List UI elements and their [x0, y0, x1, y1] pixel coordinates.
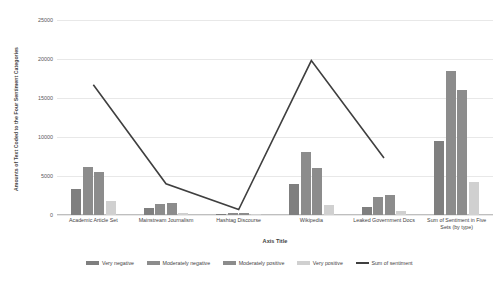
legend-item[interactable]: Moderately positive: [223, 260, 284, 266]
legend-line-swatch-icon: [356, 262, 369, 263]
bar: [178, 213, 188, 215]
bar: [144, 208, 154, 215]
bar-groups: [57, 20, 493, 215]
bar: [324, 205, 334, 215]
bar-group: [57, 20, 130, 215]
bar: [71, 189, 81, 215]
bar: [106, 201, 116, 215]
x-axis-labels: Academic Article SetMainstream Journalis…: [57, 217, 493, 231]
bar: [94, 172, 104, 215]
bar: [216, 214, 226, 215]
legend-label: Very positive: [313, 260, 343, 266]
x-tick-label: Leaked Government Docs: [348, 217, 421, 231]
plot-area: 0500010000150002000025000: [57, 20, 493, 215]
legend-item[interactable]: Very positive: [297, 260, 343, 266]
legend-label: Moderately negative: [163, 260, 211, 266]
x-axis-title: Axis Title: [57, 238, 493, 244]
bar: [239, 213, 249, 215]
legend-label: Moderately positive: [239, 260, 285, 266]
bar: [446, 71, 456, 215]
x-tick-label: Sum of Sentiment in Five Sets (by type): [420, 217, 493, 231]
y-tick-label: 10000: [38, 134, 53, 140]
y-tick-label: 25000: [38, 17, 53, 23]
bar-group: [130, 20, 203, 215]
x-tick-label: Mainstream Journalism: [130, 217, 203, 231]
y-tick-label: 5000: [41, 173, 53, 179]
bar: [301, 152, 311, 215]
legend-label: Sum of sentiment: [371, 260, 412, 266]
bar-group: [420, 20, 493, 215]
y-axis-title: Amounts of Text Coded to the Four Sentim…: [9, 16, 23, 222]
bar: [434, 141, 444, 215]
legend-color-swatch-icon: [297, 261, 310, 265]
y-tick-label: 15000: [38, 95, 53, 101]
chart-legend: Very negativeModerately negativeModerate…: [0, 260, 499, 266]
bar-group: [275, 20, 348, 215]
bar-group: [202, 20, 275, 215]
legend-item[interactable]: Very negative: [86, 260, 134, 266]
x-tick-label: Wikipedia: [275, 217, 348, 231]
y-tick-label: 20000: [38, 56, 53, 62]
legend-color-swatch-icon: [147, 261, 160, 265]
bar: [385, 195, 395, 215]
bar: [457, 90, 467, 215]
bar: [155, 204, 165, 215]
bar-group: [348, 20, 421, 215]
sentiment-bar-chart: Amounts of Text Coded to the Four Sentim…: [0, 0, 499, 286]
bar: [312, 168, 322, 215]
bar: [228, 213, 238, 215]
bar: [83, 167, 93, 215]
bar: [469, 182, 479, 215]
x-tick-label: Hashtag Discourse: [202, 217, 275, 231]
legend-item[interactable]: Moderately negative: [147, 260, 210, 266]
bar: [362, 207, 372, 215]
y-tick-label: 0: [50, 212, 53, 218]
bar: [396, 211, 406, 215]
bar: [251, 214, 261, 215]
legend-item[interactable]: Sum of sentiment: [356, 260, 413, 266]
bar: [373, 197, 383, 215]
legend-color-swatch-icon: [223, 261, 236, 265]
bar: [167, 203, 177, 215]
grid-line: [57, 215, 493, 216]
bar: [289, 184, 299, 215]
legend-label: Very negative: [102, 260, 134, 266]
x-tick-label: Academic Article Set: [57, 217, 130, 231]
legend-color-swatch-icon: [86, 261, 99, 265]
